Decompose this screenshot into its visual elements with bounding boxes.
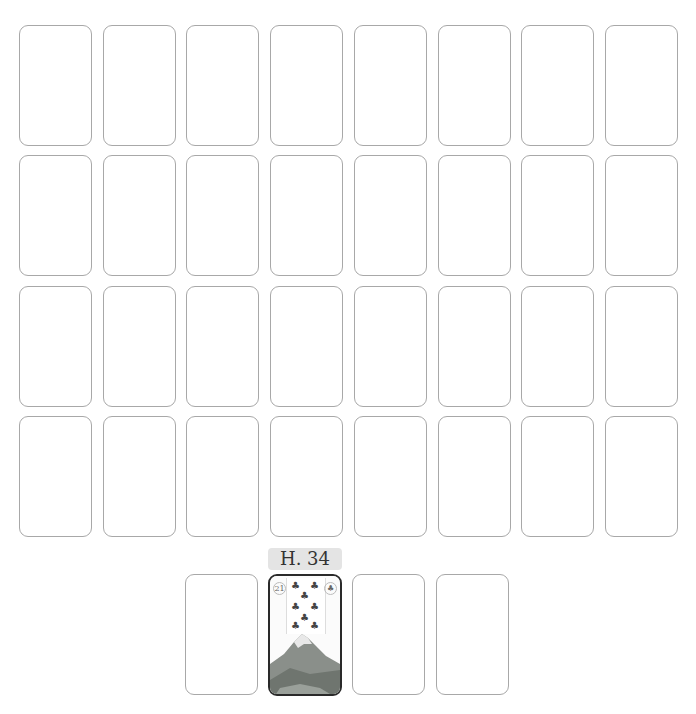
mountain-icon	[270, 630, 340, 694]
hand-card-slot[interactable]	[352, 574, 425, 695]
board-card-slot[interactable]	[270, 155, 343, 276]
board-card-slot[interactable]	[438, 416, 511, 537]
board-card-slot[interactable]	[605, 25, 678, 146]
board-card-slot[interactable]	[354, 155, 427, 276]
board-card-slot[interactable]	[186, 286, 259, 407]
board-card-slot[interactable]	[354, 286, 427, 407]
club-icon: ♣	[291, 601, 300, 612]
board-card-slot[interactable]	[438, 25, 511, 146]
board-card-slot[interactable]	[438, 286, 511, 407]
hand-card-slot[interactable]	[185, 574, 258, 695]
board-card-slot[interactable]	[354, 416, 427, 537]
card-face: 21 ♣ ♣ ♣ ♣ ♣ ♣ ♣ ♣ ♣	[270, 576, 340, 694]
club-icon: ♣	[310, 580, 319, 591]
board-card-slot[interactable]	[605, 155, 678, 276]
board-card-slot[interactable]	[354, 25, 427, 146]
board-card-slot[interactable]	[270, 286, 343, 407]
board-card-slot[interactable]	[521, 416, 594, 537]
board-card-slot[interactable]	[103, 25, 176, 146]
board-card-slot[interactable]	[103, 416, 176, 537]
board-card-slot[interactable]	[19, 286, 92, 407]
board-card-slot[interactable]	[19, 416, 92, 537]
card-number: 21	[273, 582, 286, 595]
board-card-slot[interactable]	[186, 416, 259, 537]
board-card-slot[interactable]	[438, 155, 511, 276]
board-card-slot[interactable]	[19, 25, 92, 146]
club-icon: ♣	[300, 590, 309, 601]
board-card-slot[interactable]	[605, 286, 678, 407]
board-card-slot[interactable]	[270, 25, 343, 146]
board-card-slot[interactable]	[103, 155, 176, 276]
hand-card-slot[interactable]	[436, 574, 509, 695]
club-icon: ♣	[310, 601, 319, 612]
board-card-slot[interactable]	[270, 416, 343, 537]
selected-hand-card[interactable]: 21 ♣ ♣ ♣ ♣ ♣ ♣ ♣ ♣ ♣	[268, 574, 342, 696]
board-card-slot[interactable]	[521, 155, 594, 276]
board-card-slot[interactable]	[521, 286, 594, 407]
club-icon: ♣	[300, 612, 309, 623]
board-card-slot[interactable]	[103, 286, 176, 407]
board-card-slot[interactable]	[186, 25, 259, 146]
board-card-slot[interactable]	[605, 416, 678, 537]
club-corner-icon: ♣	[324, 582, 337, 595]
selected-card-label: H. 34	[268, 548, 342, 570]
board-card-slot[interactable]	[521, 25, 594, 146]
board-card-slot[interactable]	[186, 155, 259, 276]
board-card-slot[interactable]	[19, 155, 92, 276]
club-icon: ♣	[291, 580, 300, 591]
